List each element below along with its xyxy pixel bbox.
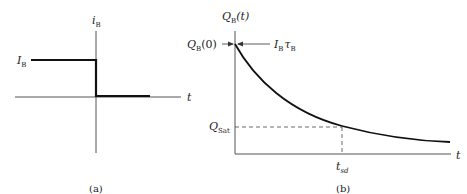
b-x-axis-label: t bbox=[456, 149, 461, 162]
b-caption: (b) bbox=[336, 183, 350, 194]
b-left-pointing-arrow-icon bbox=[237, 42, 243, 47]
figure-a: iB IB t (a) bbox=[15, 14, 192, 194]
a-level-label: IB bbox=[16, 54, 27, 69]
b-y-axis-label: QB(t) bbox=[222, 10, 249, 25]
b-charge-decay-curve bbox=[235, 44, 450, 142]
figure-b: QB(t) QB(0) IBτB QSat tsd t (b) bbox=[187, 10, 461, 194]
a-y-axis-label: iB bbox=[92, 14, 101, 29]
b-qsat-label: QSat bbox=[209, 120, 230, 135]
b-right-pointing-arrow-icon bbox=[228, 42, 234, 47]
diagram-canvas: iB IB t (a) QB(t) QB(0) IBτB QSat bbox=[0, 0, 467, 194]
b-tsd-label: tsd bbox=[336, 160, 349, 175]
a-caption: (a) bbox=[89, 183, 103, 194]
b-initial-value-label: IBτB bbox=[273, 38, 296, 53]
b-initial-charge-label: QB(0) bbox=[187, 38, 217, 53]
a-x-axis-label: t bbox=[187, 91, 192, 104]
a-current-waveform bbox=[31, 60, 150, 96]
